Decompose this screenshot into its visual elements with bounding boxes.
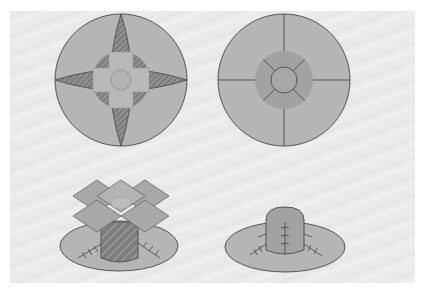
panel-finished-hat (225, 207, 345, 272)
panel-flat-star-pattern (55, 14, 187, 146)
panel-flat-quarter-pattern (218, 14, 350, 146)
panel-assembled-open-flaps (60, 180, 178, 271)
diagram-canvas (0, 0, 428, 294)
